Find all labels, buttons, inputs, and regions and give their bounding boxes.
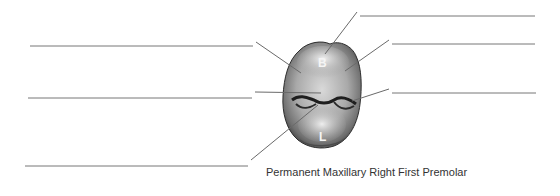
lingual-label: L [319, 130, 326, 144]
answer-lines [25, 16, 536, 166]
buccal-label: B [318, 56, 327, 70]
figure-caption: Permanent Maxillary Right First Premolar [266, 166, 467, 178]
